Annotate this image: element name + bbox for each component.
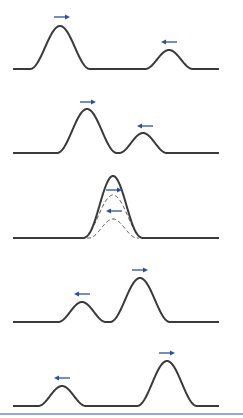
arrow-left-icon (161, 39, 177, 44)
arrow-right-icon (54, 14, 70, 19)
arrow-right-icon (132, 267, 148, 272)
panel-5 (13, 350, 219, 406)
arrow-right-icon (80, 99, 96, 104)
resultant-wave (13, 361, 219, 406)
arrow-right-icon (106, 187, 122, 192)
resultant-wave (13, 26, 219, 69)
panel-1 (13, 14, 219, 69)
arrow-left-icon (137, 123, 153, 128)
panel-4 (13, 267, 219, 322)
diagram-canvas (0, 0, 243, 418)
arrow-left-icon (74, 291, 90, 296)
arrow-left-icon (106, 208, 122, 213)
resultant-wave (13, 176, 219, 238)
panel-3 (13, 176, 219, 238)
arrow-left-icon (54, 375, 70, 380)
panel-2 (13, 99, 219, 153)
arrow-right-icon (159, 350, 175, 355)
resultant-wave (13, 278, 219, 322)
resultant-wave (13, 109, 219, 153)
superposition-diagram: Superposition of two wave pulses traveli… (0, 0, 243, 418)
